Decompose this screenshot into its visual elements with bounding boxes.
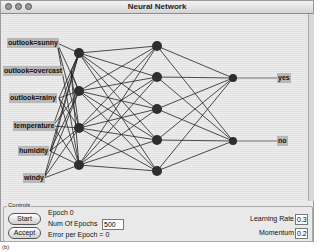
- controls-title: Controls: [7, 202, 31, 208]
- hidden-node[interactable]: [152, 41, 162, 51]
- start-button[interactable]: Start: [8, 213, 41, 225]
- learning-rate-input[interactable]: 0.3: [295, 214, 308, 225]
- hidden-node[interactable]: [152, 135, 162, 145]
- momentum-input[interactable]: 0.2: [295, 228, 308, 239]
- hidden-node[interactable]: [74, 48, 84, 58]
- input-node-label[interactable]: outlook=rainy: [9, 93, 57, 103]
- controls-panel: Controls Start Accept Epoch 0 Num Of Epo…: [3, 206, 313, 242]
- output-node-label[interactable]: yes: [277, 73, 291, 83]
- momentum-label: Momentum =: [259, 229, 300, 236]
- hidden-node[interactable]: [152, 72, 162, 82]
- input-node-label[interactable]: temperature: [13, 121, 55, 131]
- input-node-label[interactable]: outlook=overcast: [3, 66, 63, 76]
- accept-button[interactable]: Accept: [8, 227, 41, 239]
- output-node[interactable]: [229, 74, 237, 82]
- error-per-epoch-text: Error per Epoch = 0: [48, 231, 109, 238]
- hidden-node[interactable]: [152, 104, 162, 114]
- learning-rate-label: Learning Rate =: [250, 215, 300, 222]
- output-node[interactable]: [229, 137, 237, 145]
- num-epochs-label: Num Of Epochs: [48, 220, 97, 227]
- hidden-node[interactable]: [74, 86, 84, 96]
- epoch-text: Epoch 0: [48, 209, 74, 216]
- neural-network-window: Neural Network outlook=sunnyoutlook=over…: [0, 0, 314, 242]
- output-node-label[interactable]: no: [277, 136, 288, 146]
- input-node-label[interactable]: windy: [23, 173, 45, 183]
- input-node-label[interactable]: outlook=sunny: [7, 38, 59, 48]
- hidden-node[interactable]: [74, 160, 84, 170]
- figure-caption: (b): [2, 244, 9, 250]
- hidden-node[interactable]: [74, 123, 84, 133]
- hidden-node[interactable]: [152, 166, 162, 176]
- num-epochs-input[interactable]: 500: [102, 219, 124, 230]
- input-node-label[interactable]: humidity: [18, 146, 49, 156]
